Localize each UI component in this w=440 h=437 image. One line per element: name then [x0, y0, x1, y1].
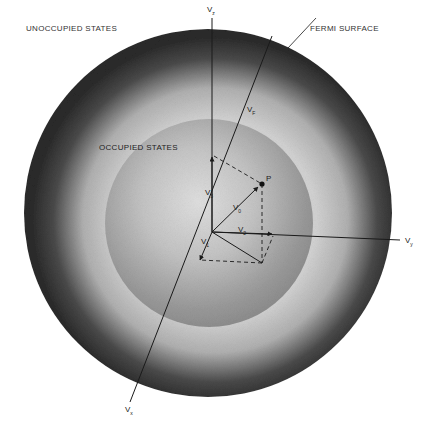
fermi-surface-leader [288, 18, 316, 48]
point-p [259, 181, 264, 186]
point-p-label: P [266, 174, 271, 183]
v3-label: V3 [205, 188, 213, 199]
v0-sub: 0 [238, 208, 241, 214]
v2-sub: 2 [243, 230, 246, 236]
vf-sub: F [252, 110, 255, 116]
v2-label: V2 [238, 225, 246, 236]
vy-sub: y [410, 241, 413, 247]
vx-axis-label: Vx [125, 405, 133, 416]
occupied-states-label: OCCUPIED STATES [99, 143, 178, 152]
vf-label: VF [247, 105, 255, 116]
vy-axis-label: Vy [405, 236, 413, 247]
v1-label: V1 [201, 237, 209, 248]
v0-label: V0 [233, 203, 241, 214]
vz-sub: z [212, 10, 215, 16]
vx-sub: x [130, 410, 133, 416]
unoccupied-states-label: UNOCCUPIED STATES [26, 24, 117, 33]
v1-sub: 1 [206, 242, 209, 248]
v3-sub: 3 [210, 193, 213, 199]
fermi-sphere-diagram [0, 0, 440, 437]
vz-axis-label: Vz [207, 5, 215, 16]
fermi-surface-label: FERMI SURFACE [310, 24, 379, 33]
